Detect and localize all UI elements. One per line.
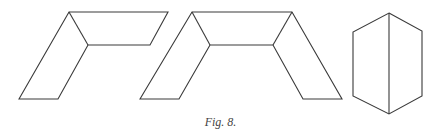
- shape-three-panel-fold: [140, 12, 342, 99]
- hexagonal-prism-view-edge: [353, 13, 422, 114]
- two-panel-fold-edge: [19, 12, 168, 99]
- shape-hexagonal-prism: [353, 13, 422, 114]
- two-panel-fold-edge: [69, 12, 88, 45]
- three-panel-fold-edge: [140, 12, 342, 99]
- three-panel-fold-edge: [273, 12, 292, 45]
- shape-two-panel-fold: [19, 12, 168, 99]
- figure-caption: Fig. 8.: [0, 115, 441, 130]
- three-panel-fold-edge: [192, 12, 210, 45]
